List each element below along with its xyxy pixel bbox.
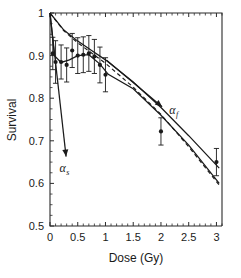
y-tick-label: 0.7 <box>29 135 44 147</box>
x-tick-label: 3 <box>213 231 219 243</box>
data-points-with-error-bars <box>50 33 219 175</box>
data-point-group <box>81 37 86 73</box>
survival-dose-chart: 0.50.60.70.80.91 00.511.522.53 αsαf Dose… <box>0 0 241 278</box>
data-point-marker <box>70 48 74 52</box>
data-point-group <box>103 58 108 92</box>
data-point-group <box>58 45 63 79</box>
x-axis-tick-labels: 00.511.522.53 <box>47 231 220 243</box>
x-tick-label: 0 <box>47 231 53 243</box>
data-point-marker <box>65 63 69 67</box>
annotation-arrow-shaft <box>107 60 162 106</box>
x-tick-label: 1 <box>102 231 108 243</box>
y-tick-label: 0.5 <box>29 220 44 232</box>
data-point-marker <box>98 63 102 67</box>
x-tick-label: 0.5 <box>70 231 85 243</box>
data-point-group <box>92 39 97 73</box>
data-point-marker <box>103 73 107 77</box>
data-point-group <box>64 48 69 82</box>
data-point-group <box>158 118 163 145</box>
y-tick-label: 0.6 <box>29 177 44 189</box>
annotation-arrow-shaft <box>50 13 66 157</box>
data-point-marker <box>81 53 85 57</box>
annotation-label: αs <box>59 161 69 177</box>
annotation-alpha-s: αs <box>50 13 69 177</box>
annotation-label-subscript: f <box>176 110 180 119</box>
axis-spines <box>50 13 222 226</box>
x-axis-title: Dose (Gy) <box>109 251 164 265</box>
data-point-marker <box>76 54 80 58</box>
annotation-arrow-head <box>62 149 68 156</box>
figure-root: 0.50.60.70.80.91 00.511.522.53 αsαf Dose… <box>0 0 241 278</box>
data-point-marker <box>59 60 63 64</box>
data-point-group <box>97 47 102 83</box>
x-tick-label: 2 <box>158 231 164 243</box>
y-tick-label: 1 <box>38 7 44 19</box>
x-tick-label: 1.5 <box>126 231 141 243</box>
data-point-marker <box>214 160 218 164</box>
fit-curves <box>50 13 219 185</box>
y-axis-tick-labels: 0.50.60.70.80.91 <box>29 7 44 232</box>
data-point-marker <box>87 51 91 55</box>
slope-annotations: αsαf <box>50 13 180 177</box>
x-tick-label: 2.5 <box>181 231 196 243</box>
y-tick-label: 0.9 <box>29 50 44 62</box>
y-axis-title: Survival <box>5 99 19 142</box>
data-point-group <box>86 36 91 72</box>
annotation-label: αf <box>169 103 180 119</box>
x-axis-ticks <box>50 13 222 226</box>
plot-frame <box>50 13 222 226</box>
y-tick-label: 0.8 <box>29 92 44 104</box>
data-point-marker <box>159 129 163 133</box>
annotation-alpha-f: αf <box>107 60 180 119</box>
annotation-label-subscript: s <box>66 168 69 177</box>
data-point-marker <box>92 54 96 58</box>
axis-frame-top-right <box>50 13 222 226</box>
data-point-group <box>214 148 219 175</box>
